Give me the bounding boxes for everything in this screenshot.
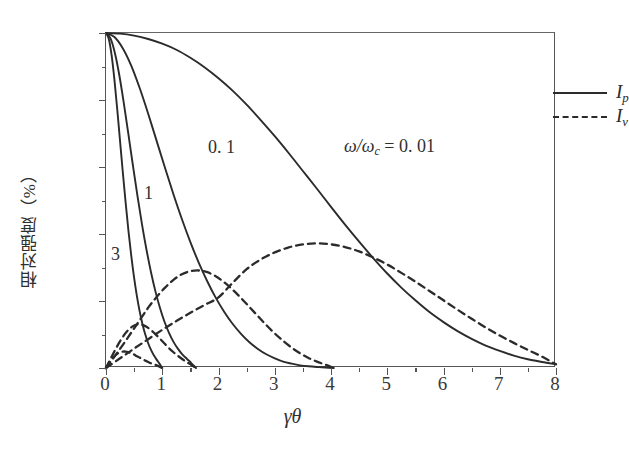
plot-area: 0. 113 ω/ωc = 0. 01 Ip Iv — [105, 32, 555, 367]
curve-ip-0 — [106, 33, 556, 364]
curve-iv-4 — [106, 243, 556, 368]
y-tick-80 — [99, 100, 106, 101]
x-axis-title: γθ — [0, 405, 585, 428]
y-tick-minor-70 — [102, 134, 106, 135]
x-tick-minor-2.5 — [247, 368, 248, 372]
y-tick-minor-10 — [102, 335, 106, 336]
y-axis-title: 相对强度（%） — [14, 0, 44, 453]
x-tick-minor-3.5 — [303, 368, 304, 372]
curve-iv-5 — [106, 270, 334, 368]
curve-label-2: 3 — [111, 244, 120, 265]
x-tick-label-1: 1 — [141, 374, 181, 393]
x-tick-minor-0.5 — [134, 368, 135, 372]
legend-swatch-dashed — [553, 111, 607, 123]
x-tick-label-7: 7 — [479, 374, 519, 393]
x-tick-label-2: 2 — [198, 374, 238, 393]
curve-ip-3 — [106, 33, 162, 368]
y-tick-20 — [99, 301, 106, 302]
x-axis-title-text: γθ — [284, 405, 302, 427]
x-tick-minor-7.5 — [528, 368, 529, 372]
y-tick-minor-50 — [102, 201, 106, 202]
legend-label-ip: Ip — [616, 81, 629, 106]
x-tick-label-8: 8 — [535, 374, 575, 393]
curves-layer — [106, 33, 556, 368]
x-tick-label-4: 4 — [310, 374, 350, 393]
x-tick-label-6: 6 — [423, 374, 463, 393]
y-tick-60 — [99, 167, 106, 168]
x-tick-minor-1.5 — [190, 368, 191, 372]
curve-iv-6 — [106, 324, 196, 368]
y-tick-minor-30 — [102, 268, 106, 269]
curve-label-0: 0. 1 — [208, 137, 235, 158]
legend-entry-iv: Iv — [553, 105, 629, 129]
omega-ratio-annotation: ω/ωc = 0. 01 — [344, 136, 435, 159]
legend-swatch-solid — [553, 87, 607, 99]
x-tick-label-3: 3 — [254, 374, 294, 393]
x-tick-minor-4.5 — [359, 368, 360, 372]
y-tick-40 — [99, 234, 106, 235]
omega-prefix: ω/ω — [344, 136, 374, 156]
legend: Ip Iv — [553, 81, 629, 129]
y-tick-100 — [99, 33, 106, 34]
omega-value: = 0. 01 — [380, 136, 435, 156]
x-tick-minor-6.5 — [472, 368, 473, 372]
curve-label-1: 1 — [144, 183, 153, 204]
y-axis-title-text: 相对强度（%） — [17, 165, 42, 288]
y-tick-minor-90 — [102, 67, 106, 68]
x-tick-label-5: 5 — [366, 374, 406, 393]
x-tick-label-0: 0 — [85, 374, 125, 393]
y-tick-0 — [99, 368, 106, 369]
legend-label-iv: Iv — [616, 105, 628, 130]
x-tick-minor-5.5 — [415, 368, 416, 372]
legend-entry-ip: Ip — [553, 81, 629, 105]
